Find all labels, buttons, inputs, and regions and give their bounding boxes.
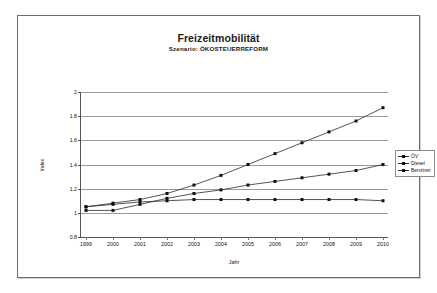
legend-label: Diesel: [411, 160, 425, 167]
data-point: [382, 199, 385, 202]
data-point: [382, 106, 385, 109]
data-point: [247, 163, 250, 166]
x-tick-mark: [356, 237, 357, 240]
x-tick-label: 2003: [188, 241, 200, 247]
data-point: [112, 203, 115, 206]
x-tick-label: 2006: [269, 241, 281, 247]
legend-label: Benziner: [411, 167, 431, 174]
data-point: [220, 198, 223, 201]
x-tick-label: 2005: [242, 241, 254, 247]
legend-item-diesel: Diesel: [398, 160, 431, 167]
legend-marker-icon: [398, 160, 409, 167]
y-tick-label: 1: [74, 210, 77, 216]
x-tick-label: 2009: [350, 241, 362, 247]
x-tick-mark: [275, 237, 276, 240]
data-point: [166, 192, 169, 195]
series-plot: [81, 92, 388, 237]
x-tick-mark: [167, 237, 168, 240]
data-point: [193, 198, 196, 201]
data-point: [301, 141, 304, 144]
y-tick-label: 2: [74, 89, 77, 95]
series-line-diesel: [86, 165, 383, 211]
data-point: [355, 198, 358, 201]
legend-item-öv: ÖV: [398, 153, 431, 160]
data-point: [328, 198, 331, 201]
y-tick-mark: [78, 237, 81, 238]
data-point: [247, 184, 250, 187]
data-point: [328, 173, 331, 176]
x-tick-label: 2008: [323, 241, 335, 247]
data-point: [355, 120, 358, 123]
data-point: [382, 163, 385, 166]
data-point: [85, 205, 88, 208]
x-tick-label: 2004: [215, 241, 227, 247]
data-point: [301, 176, 304, 179]
series-line-öv: [86, 108, 383, 207]
data-point: [247, 198, 250, 201]
legend-marker-icon: [398, 167, 409, 174]
x-tick-label: 1999: [80, 241, 92, 247]
data-point: [328, 130, 331, 133]
x-tick-mark: [140, 237, 141, 240]
chart-legend: ÖVDieselBenziner: [395, 150, 435, 177]
x-tick-mark: [86, 237, 87, 240]
screenshot-page: Freizeitmobilität Szenario: ÖKOSTEUERREF…: [0, 0, 437, 293]
y-axis-title: Index: [39, 159, 45, 171]
data-point: [85, 209, 88, 212]
data-point: [274, 152, 277, 155]
y-tick-label: 0.8: [70, 234, 77, 240]
data-point: [193, 192, 196, 195]
x-tick-label: 2002: [161, 241, 173, 247]
data-point: [193, 184, 196, 187]
y-tick-label: 1.6: [70, 137, 77, 143]
data-point: [220, 188, 223, 191]
data-point: [139, 200, 142, 203]
data-point: [355, 169, 358, 172]
legend-marker-icon: [398, 153, 409, 160]
x-tick-mark: [248, 237, 249, 240]
data-point: [301, 198, 304, 201]
chart-subtitle: Szenario: ÖKOSTEUERREFORM: [18, 45, 419, 52]
data-point: [220, 174, 223, 177]
data-point: [274, 198, 277, 201]
x-tick-label: 2010: [377, 241, 389, 247]
data-point: [166, 199, 169, 202]
x-tick-mark: [221, 237, 222, 240]
plot-area: 0.811.21.41.61.82 1999200020012002200320…: [80, 92, 388, 238]
legend-label: ÖV: [411, 153, 418, 160]
y-tick-label: 1.2: [70, 186, 77, 192]
x-axis-title: Jahr: [80, 259, 388, 265]
x-tick-mark: [113, 237, 114, 240]
x-tick-mark: [383, 237, 384, 240]
legend-item-benziner: Benziner: [398, 167, 431, 174]
document-frame: Freizeitmobilität Szenario: ÖKOSTEUERREF…: [17, 15, 420, 278]
x-tick-label: 2000: [107, 241, 119, 247]
x-tick-label: 2007: [296, 241, 308, 247]
x-tick-mark: [302, 237, 303, 240]
chart-title: Freizeitmobilität: [18, 32, 419, 44]
y-tick-label: 1.4: [70, 162, 77, 168]
y-tick-label: 1.8: [70, 113, 77, 119]
x-tick-mark: [329, 237, 330, 240]
x-tick-label: 2001: [134, 241, 146, 247]
data-point: [274, 180, 277, 183]
x-tick-mark: [194, 237, 195, 240]
data-point: [112, 209, 115, 212]
